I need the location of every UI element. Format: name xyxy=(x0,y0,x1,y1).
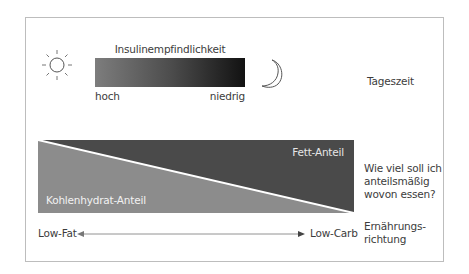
row-label-line-2: richtung xyxy=(364,233,444,246)
row-label-tageszeit: Tageszeit xyxy=(367,75,414,88)
moon-icon xyxy=(258,57,290,91)
question-line-3: wovon essen? xyxy=(364,188,444,201)
bar-right-label: niedrig xyxy=(200,90,245,103)
question-line-1: Wie viel soll ich xyxy=(364,162,444,175)
low-fat-label: Low-Fat xyxy=(38,227,77,240)
macronutrient-ratio-chart: Fett-Anteil Kohlenhydrat-Anteil xyxy=(38,140,354,213)
bar-title: Insulinempfindlichkeit xyxy=(95,43,245,56)
question-line-2: anteilsmäßig xyxy=(364,175,444,188)
question-label: Wie viel soll ich anteilsmäßig wovon ess… xyxy=(364,162,444,201)
low-carb-label: Low-Carb xyxy=(310,227,358,240)
row-label-ernaehrungsrichtung: Ernährungs- richtung xyxy=(364,220,444,246)
fat-share-label: Fett-Anteil xyxy=(292,146,344,159)
double-arrow-icon xyxy=(77,228,305,240)
bar-left-label: hoch xyxy=(95,90,120,103)
insulin-sensitivity-gradient-bar xyxy=(95,58,245,87)
carb-share-label: Kohlenhydrat-Anteil xyxy=(46,194,146,207)
row-label-line-1: Ernährungs- xyxy=(364,220,444,233)
sun-icon xyxy=(40,48,74,82)
